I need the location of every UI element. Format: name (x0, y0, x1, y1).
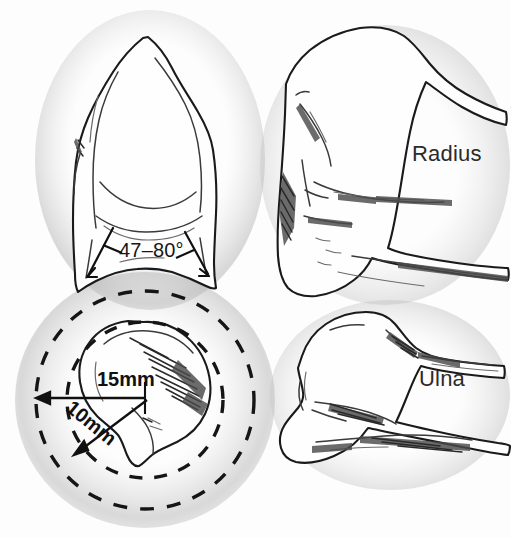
outer-radius-measurement-label: 15mm (97, 368, 155, 391)
radius-label: Radius (412, 141, 482, 167)
figure-drawing-canvas (0, 0, 511, 538)
ulna-label: Ulna (419, 366, 465, 392)
anatomical-figure: Radius Ulna 47–80° 15mm 10mm (0, 0, 511, 538)
volar-tilt-angle-label: 47–80° (119, 239, 184, 262)
